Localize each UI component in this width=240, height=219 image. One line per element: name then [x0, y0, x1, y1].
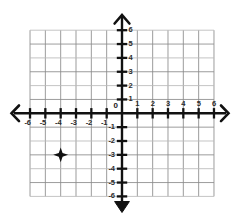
- x-axis-label-positive: 1: [135, 100, 139, 108]
- plotted-point-star-marker: [53, 147, 68, 162]
- y-axis-label-positive: 1: [128, 95, 132, 103]
- x-axis-label-negative: -2: [86, 119, 92, 127]
- y-axis-label-positive: 5: [128, 40, 132, 48]
- x-axis-label-positive: 2: [151, 100, 155, 108]
- x-axis-label-negative: -6: [24, 119, 30, 127]
- y-axis-label-negative: -2: [108, 137, 114, 145]
- coordinate-plane: [0, 0, 240, 219]
- y-axis-label-negative: -6: [108, 192, 114, 200]
- x-axis-label-positive: 6: [212, 100, 216, 108]
- y-axis-label-positive: 6: [128, 26, 132, 34]
- x-axis-label-negative: -3: [70, 119, 76, 127]
- y-axis-label-positive: 4: [128, 54, 132, 62]
- plotted-points: [53, 147, 68, 162]
- x-axis-label-negative: -1: [101, 119, 107, 127]
- y-axis-label-negative: -1: [108, 123, 114, 131]
- arrow-down-icon: [115, 202, 130, 213]
- x-axis-label-positive: 3: [166, 100, 170, 108]
- y-axis-label-negative: -4: [108, 165, 114, 173]
- x-axis-label-positive: 5: [197, 100, 201, 108]
- x-axis-label-negative: -5: [40, 119, 46, 127]
- origin-label: 0: [113, 102, 117, 110]
- y-axis-label-positive: 2: [128, 82, 132, 90]
- y-axis-label-negative: -5: [108, 179, 114, 187]
- y-axis-label-negative: -3: [108, 151, 114, 159]
- x-axis-label-negative: -4: [55, 119, 61, 127]
- y-axis-label-positive: 3: [128, 68, 132, 76]
- x-axis-label-positive: 4: [181, 100, 185, 108]
